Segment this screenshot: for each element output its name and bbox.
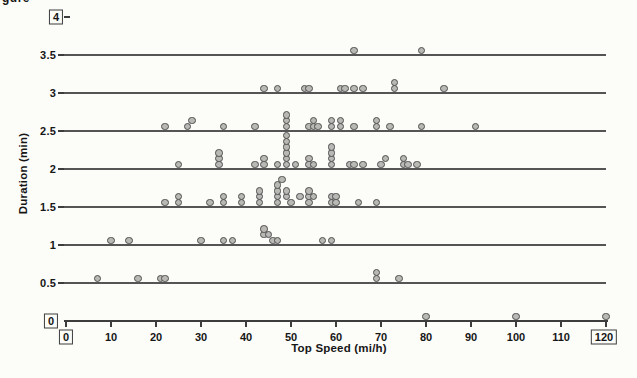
data-point bbox=[386, 123, 394, 131]
data-point bbox=[251, 161, 259, 169]
data-point bbox=[341, 85, 349, 93]
data-point bbox=[350, 85, 358, 93]
data-point bbox=[296, 193, 304, 201]
x-tick-label: 100 bbox=[496, 330, 536, 344]
data-point bbox=[175, 161, 183, 169]
x-tick bbox=[290, 321, 291, 327]
data-point bbox=[350, 161, 358, 169]
x-axis-title: Top Speed (mi/h) bbox=[254, 342, 424, 354]
data-point bbox=[472, 123, 480, 131]
x-tick bbox=[335, 321, 336, 327]
x-tick bbox=[65, 321, 66, 327]
x-tick-label: 90 bbox=[451, 330, 491, 344]
y-axis-endpoint-box: 4 bbox=[49, 10, 63, 25]
x-tick bbox=[470, 321, 471, 327]
data-point bbox=[188, 117, 196, 125]
data-point bbox=[197, 237, 205, 245]
y-tick-label: 0.5 bbox=[14, 275, 56, 291]
data-point bbox=[161, 199, 169, 207]
y-tick-dash bbox=[64, 16, 70, 18]
y-tick-label: 3.5 bbox=[14, 47, 56, 63]
data-point bbox=[328, 237, 336, 245]
clipped-figure-text-fragment: gure bbox=[2, 0, 30, 5]
data-point bbox=[512, 313, 520, 321]
x-tick bbox=[605, 321, 606, 327]
grid-line bbox=[63, 92, 606, 93]
x-tick bbox=[110, 321, 111, 327]
data-point bbox=[395, 275, 403, 283]
data-point bbox=[310, 193, 318, 201]
x-tick bbox=[245, 321, 246, 327]
data-point bbox=[283, 132, 291, 140]
data-point bbox=[404, 161, 412, 169]
x-tick-label: 110 bbox=[541, 330, 581, 344]
data-point bbox=[382, 155, 390, 163]
data-point bbox=[274, 161, 282, 169]
x-tick bbox=[155, 321, 156, 327]
data-point bbox=[274, 85, 282, 93]
data-point bbox=[373, 199, 381, 207]
scatter-plot: gure 00.511.522.533.54010203040506070809… bbox=[0, 0, 637, 378]
data-point bbox=[418, 47, 426, 55]
x-tick bbox=[380, 321, 381, 327]
data-point bbox=[107, 237, 115, 245]
grid-line bbox=[63, 206, 606, 207]
data-point bbox=[161, 275, 169, 283]
grid-line bbox=[63, 282, 606, 283]
x-tick-label: 20 bbox=[136, 330, 176, 344]
data-point bbox=[350, 123, 358, 131]
data-point bbox=[220, 237, 228, 245]
data-point bbox=[355, 199, 363, 207]
data-point bbox=[125, 237, 133, 245]
y-axis-endpoint-box: 0 bbox=[44, 314, 58, 329]
clipped-figure-text: gure bbox=[0, 0, 48, 5]
grid-line bbox=[63, 54, 606, 55]
data-point bbox=[328, 143, 336, 151]
data-point bbox=[278, 176, 286, 184]
x-tick-label: 30 bbox=[181, 330, 221, 344]
grid-line bbox=[63, 130, 606, 131]
data-point bbox=[251, 123, 259, 131]
grid-line bbox=[63, 168, 606, 169]
data-point bbox=[206, 199, 214, 207]
data-point bbox=[283, 187, 291, 195]
y-axis-title: Duration (min) bbox=[17, 107, 32, 241]
data-point bbox=[260, 85, 268, 93]
data-point bbox=[418, 123, 426, 131]
data-point bbox=[229, 237, 237, 245]
data-point bbox=[94, 275, 102, 283]
y-tick-label: 3 bbox=[14, 85, 56, 101]
data-point bbox=[314, 123, 322, 131]
data-point bbox=[292, 161, 300, 169]
grid-line bbox=[63, 244, 606, 245]
data-point bbox=[274, 237, 282, 245]
data-point bbox=[134, 275, 142, 283]
data-point bbox=[413, 161, 421, 169]
data-point bbox=[161, 123, 169, 131]
x-axis-endpoint-box: 0 bbox=[59, 330, 73, 345]
data-point bbox=[220, 123, 228, 131]
data-point bbox=[359, 85, 367, 93]
data-point bbox=[305, 85, 313, 93]
data-point bbox=[287, 199, 295, 207]
x-tick bbox=[200, 321, 201, 327]
data-point bbox=[256, 187, 264, 195]
data-point bbox=[215, 149, 223, 157]
data-point bbox=[350, 47, 358, 55]
x-axis-endpoint-box: 120 bbox=[591, 330, 617, 345]
x-tick bbox=[560, 321, 561, 327]
x-tick bbox=[425, 321, 426, 327]
data-point bbox=[602, 313, 610, 321]
data-point bbox=[359, 161, 367, 169]
data-point bbox=[319, 237, 327, 245]
data-point bbox=[283, 111, 291, 119]
data-point bbox=[440, 85, 448, 93]
data-point bbox=[310, 161, 318, 169]
data-point bbox=[422, 313, 430, 321]
x-tick bbox=[515, 321, 516, 327]
x-tick-label: 10 bbox=[91, 330, 131, 344]
